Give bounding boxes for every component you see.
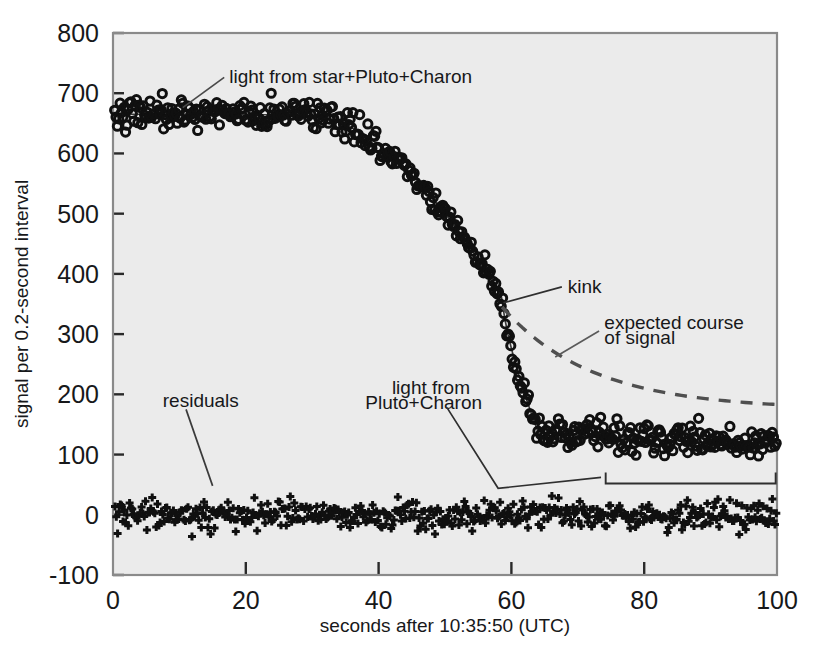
y-tick-label: 500 [57, 200, 99, 228]
y-tick-label: 700 [57, 79, 99, 107]
x-tick-label: 0 [106, 586, 120, 614]
x-tick-label: 60 [497, 586, 525, 614]
annotation-star-pluto-charon: light from star+Pluto+Charon [229, 66, 472, 87]
y-tick-label: 400 [57, 260, 99, 288]
annotation-expected-course-line2: of signal [604, 327, 675, 348]
y-tick-label: 200 [57, 380, 99, 408]
x-tick-label: 40 [365, 586, 393, 614]
x-tick-label: 80 [630, 586, 658, 614]
y-tick-label: 100 [57, 441, 99, 469]
y-tick-label: 300 [57, 320, 99, 348]
y-axis-title: signal per 0.2-second interval [11, 180, 32, 428]
y-tick-label: -100 [49, 561, 99, 589]
annotation-residuals: residuals [163, 390, 239, 411]
chart-svg: 8007006005004003002001000-10002040608010… [0, 0, 817, 645]
occultation-light-curve-figure: 8007006005004003002001000-10002040608010… [0, 0, 817, 645]
x-axis-title: seconds after 10:35:50 (UTC) [320, 615, 570, 636]
y-tick-label: 800 [57, 19, 99, 47]
y-tick-label: 0 [85, 501, 99, 529]
x-tick-label: 100 [756, 586, 798, 614]
x-tick-label: 20 [232, 586, 260, 614]
annotation-pluto-charon-line2: Pluto+Charon [365, 392, 482, 413]
annotation-kink: kink [568, 276, 602, 297]
y-tick-label: 600 [57, 139, 99, 167]
